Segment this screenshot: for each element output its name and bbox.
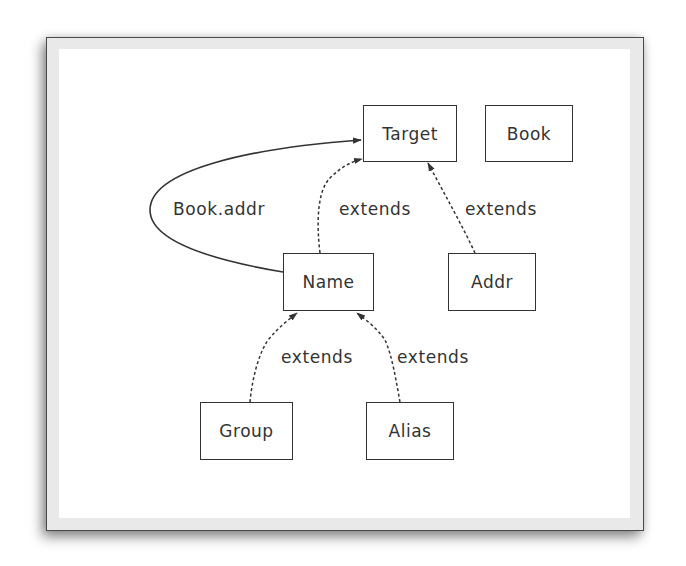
edge-label-name-extends: extends — [339, 199, 411, 219]
node-label: Book — [507, 124, 551, 144]
node-label: Alias — [389, 421, 432, 441]
node-group[interactable]: Group — [200, 402, 293, 460]
edge-label-group-extends: extends — [281, 347, 353, 367]
node-target[interactable]: Target — [363, 105, 457, 162]
node-alias[interactable]: Alias — [366, 402, 454, 460]
node-label: Name — [302, 272, 354, 292]
edge-label-book-addr: Book.addr — [173, 199, 265, 219]
edge-label-addr-extends: extends — [465, 199, 537, 219]
node-book[interactable]: Book — [485, 105, 573, 162]
node-label: Target — [382, 124, 438, 144]
edge-label-alias-extends: extends — [397, 347, 469, 367]
node-addr[interactable]: Addr — [448, 253, 536, 311]
node-label: Addr — [471, 272, 513, 292]
node-name[interactable]: Name — [283, 253, 374, 311]
node-label: Group — [219, 421, 273, 441]
edge-alias-extends-name — [357, 313, 400, 402]
